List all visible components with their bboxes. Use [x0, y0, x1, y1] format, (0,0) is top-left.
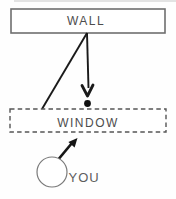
you-circle [37, 157, 67, 187]
wall-label: WALL [67, 14, 105, 28]
diagram-svg: WALL WINDOW YOU [0, 0, 176, 199]
you-to-window-arrow [57, 138, 78, 161]
you-label: YOU [69, 170, 100, 185]
wall-to-dot-arrow-shaft [87, 33, 89, 88]
wall-to-window-line [42, 33, 87, 109]
diagram-canvas: WALL WINDOW YOU [0, 0, 176, 199]
window-label: WINDOW [57, 116, 119, 130]
wall-to-dot-arrow [82, 33, 93, 96]
focus-dot [84, 100, 91, 107]
scan-artifact-top [14, 0, 176, 2]
wall-to-dot-arrowhead [82, 85, 93, 96]
